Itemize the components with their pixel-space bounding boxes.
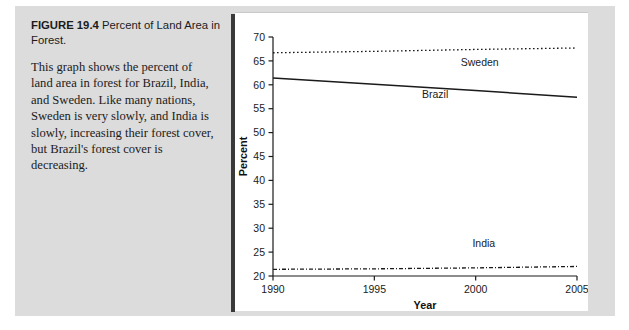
x-tick-label: 2000 bbox=[464, 283, 488, 295]
series-label-india: India bbox=[472, 237, 495, 249]
line-chart: 20253035404550556065701990199520002005Ye… bbox=[235, 12, 588, 311]
y-tick-label: 60 bbox=[253, 79, 265, 91]
series-label-sweden: Sweden bbox=[461, 56, 499, 68]
y-axis-title: Percent bbox=[237, 136, 249, 176]
y-tick-label: 70 bbox=[253, 31, 265, 43]
figure-number-label: FIGURE 19.4 bbox=[31, 19, 99, 31]
figure-caption-text: This graph shows the percent of land are… bbox=[31, 59, 217, 174]
plot-surface: 20253035404550556065701990199520002005Ye… bbox=[235, 12, 588, 311]
y-tick-label: 35 bbox=[253, 198, 265, 210]
y-tick-label: 65 bbox=[253, 55, 265, 67]
y-tick-label: 50 bbox=[253, 126, 265, 138]
figure-caption-panel: FIGURE 19.4 Percent of Land Area in Fore… bbox=[31, 14, 227, 308]
y-tick-label: 55 bbox=[253, 102, 265, 114]
x-tick-label: 1995 bbox=[363, 283, 387, 295]
y-tick-label: 40 bbox=[253, 174, 265, 186]
x-tick-label: 1990 bbox=[261, 283, 285, 295]
series-line-sweden bbox=[273, 48, 577, 53]
x-tick-label: 2005 bbox=[565, 283, 588, 295]
x-axis-title: Year bbox=[414, 299, 438, 311]
figure-title: FIGURE 19.4 Percent of Land Area in Fore… bbox=[31, 18, 221, 48]
figure-root: FIGURE 19.4 Percent of Land Area in Fore… bbox=[0, 0, 629, 330]
y-tick-label: 20 bbox=[253, 270, 265, 282]
series-label-brazil: Brazil bbox=[422, 88, 448, 100]
series-line-india bbox=[273, 266, 577, 269]
chart-panel: 20253035404550556065701990199520002005Ye… bbox=[235, 12, 588, 311]
y-tick-label: 45 bbox=[253, 150, 265, 162]
y-tick-label: 25 bbox=[253, 246, 265, 258]
y-tick-label: 30 bbox=[253, 222, 265, 234]
